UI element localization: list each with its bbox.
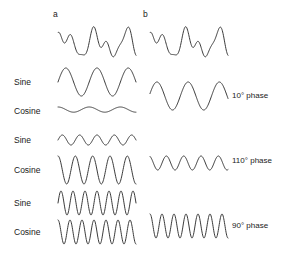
panel-letter-a: a <box>53 10 58 19</box>
waveform-cosine-component-2 <box>58 153 140 187</box>
fourier-decomposition-figure: abSineCosineSineCosineSineCosine10° phas… <box>0 0 290 265</box>
waveform-composite-b <box>150 21 232 67</box>
waveform-path-cosine-component-3 <box>58 220 136 244</box>
waveform-path-cosine-component-2 <box>58 156 136 184</box>
waveform-cosine-component-1 <box>58 104 140 115</box>
waveform-composite-a <box>58 21 140 67</box>
waveform-path-sine-component-2 <box>58 135 136 145</box>
waveform-cosine-component-3 <box>58 217 140 247</box>
waveform-path-sine-component-1 <box>58 68 136 96</box>
row-label-sine-0: Sine <box>14 78 31 87</box>
waveform-path-phase-wave-2 <box>150 156 228 170</box>
row-label-sine-2: Sine <box>14 136 31 145</box>
panel-letter-b: b <box>143 10 148 19</box>
waveform-path-cosine-component-1 <box>58 107 136 112</box>
waveform-path-composite-b <box>150 27 228 57</box>
phase-label-1: 110° phase <box>232 157 272 165</box>
row-label-sine-4: Sine <box>14 199 31 208</box>
phase-label-2: 90° phase <box>232 222 268 230</box>
waveform-phase-wave-2 <box>150 153 232 173</box>
row-label-cosine-5: Cosine <box>14 228 40 237</box>
waveform-sine-component-2 <box>58 132 140 148</box>
waveform-path-phase-wave-3 <box>150 214 228 238</box>
waveform-phase-wave-1 <box>150 79 232 113</box>
row-label-cosine-3: Cosine <box>14 166 40 175</box>
waveform-path-phase-wave-1 <box>150 82 228 110</box>
waveform-path-composite-a <box>58 27 136 57</box>
row-label-cosine-1: Cosine <box>14 107 40 116</box>
waveform-sine-component-1 <box>58 65 140 99</box>
waveform-phase-wave-3 <box>150 211 232 241</box>
waveform-sine-component-3 <box>58 188 140 218</box>
phase-label-0: 10° phase <box>232 92 268 100</box>
waveform-path-sine-component-3 <box>58 191 136 215</box>
